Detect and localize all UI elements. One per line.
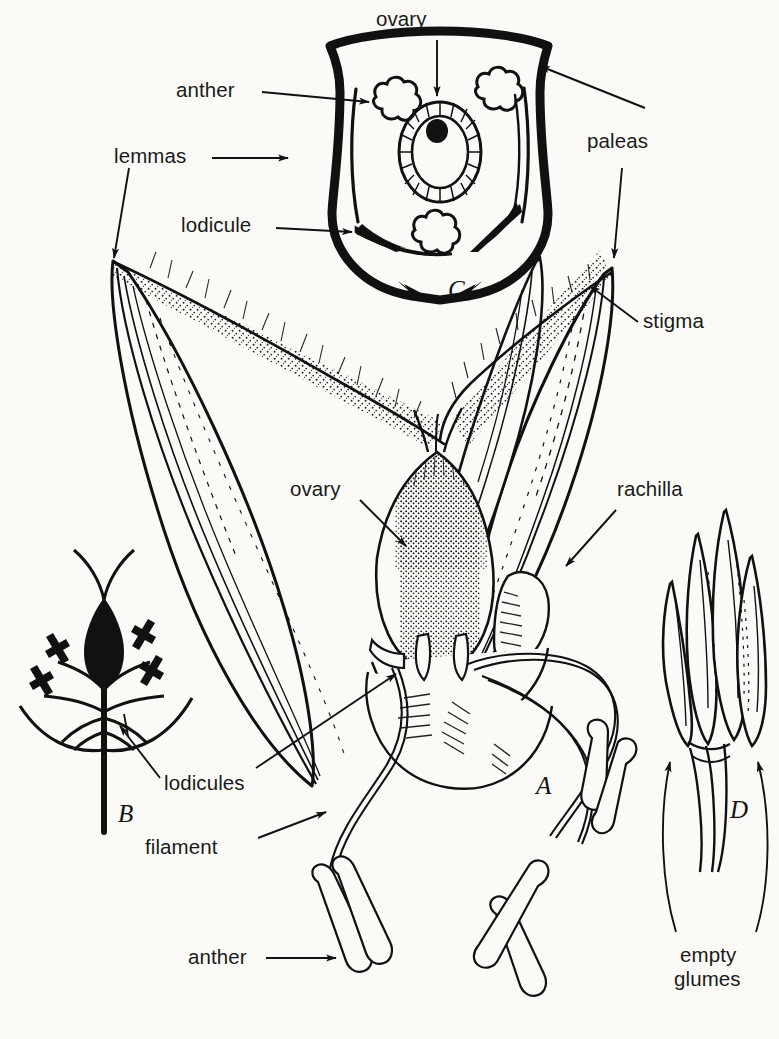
leader-lodicules-b <box>120 726 160 778</box>
panel-c-cross-section <box>330 31 548 303</box>
anther-section-right <box>476 67 523 110</box>
panel-letter-a: A <box>536 772 551 800</box>
leader-rachilla <box>566 510 616 566</box>
ovary-solid <box>84 598 124 688</box>
anther-pair-center <box>312 856 392 971</box>
label-empty-glumes-line1: empty <box>680 944 736 967</box>
panel-d-glumes <box>663 510 768 932</box>
anther-pair-upper-right <box>581 720 636 834</box>
panel-letter-c: C <box>448 276 465 304</box>
leader-lodicule <box>276 228 352 232</box>
label-anther-bottom: anther <box>188 946 247 969</box>
anther-section-left <box>374 77 421 120</box>
panel-a-floret <box>100 240 640 996</box>
label-lodicules: lodicules <box>164 772 245 795</box>
label-stigma: stigma <box>643 310 704 333</box>
anther-pair-right <box>474 861 549 996</box>
label-ovary-top: ovary <box>376 8 427 31</box>
leader-paleas-up <box>540 66 645 108</box>
label-ovary-mid: ovary <box>290 478 341 501</box>
label-anther-top: anther <box>176 79 235 102</box>
label-paleas: paleas <box>587 130 648 153</box>
label-filament: filament <box>145 836 218 859</box>
leader-paleas-down <box>614 168 622 258</box>
panel-letter-b: B <box>118 800 133 828</box>
leader-filament <box>258 812 326 838</box>
label-lemmas: lemmas <box>114 145 186 168</box>
leader-anther-top <box>262 92 369 102</box>
label-lodicule: lodicule <box>181 214 251 237</box>
label-empty-glumes-line2: glumes <box>674 968 741 991</box>
anther-section-bottom <box>413 210 460 253</box>
leader-lemmas-down <box>114 168 129 258</box>
panel-letter-d: D <box>730 796 748 824</box>
label-rachilla: rachilla <box>617 478 683 501</box>
botanical-figure: ovary anther lemmas lodicule paleas stig… <box>0 0 779 1039</box>
